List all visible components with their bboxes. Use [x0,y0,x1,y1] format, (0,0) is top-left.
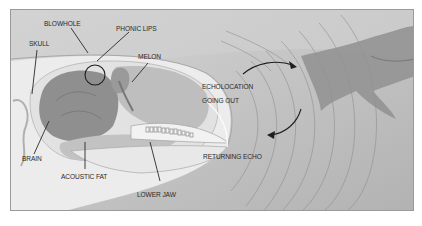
label-blowhole: BLOWHOLE [44,21,81,28]
label-brain: BRAIN [22,156,42,163]
label-echolocation-line2: GOING OUT [202,98,239,105]
brain [39,70,118,141]
diagram-frame: BLOWHOLE PHONIC LIPS SKULL MELON ECHOLOC… [10,9,414,211]
label-lower-jaw: LOWER JAW [137,192,176,199]
label-phonic-lips: PHONIC LIPS [116,26,157,33]
dolphin-echolocation-illustration [11,10,414,211]
label-echolocation-line1: ECHOLOCATION [202,84,253,91]
label-skull: SKULL [29,41,49,48]
label-melon: MELON [138,54,161,61]
label-returning-echo: RETURNING ECHO [203,154,262,161]
label-acoustic-fat: ACOUSTIC FAT [61,174,107,181]
